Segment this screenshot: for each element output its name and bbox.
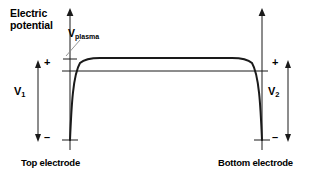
axis-title-line1: Electric (10, 8, 53, 20)
axis-title-line2: potential (10, 20, 53, 32)
axis-arrowhead-up-left (67, 8, 74, 16)
vplasma-label: Vplasma (68, 28, 99, 40)
v2-measure-arrow (285, 60, 291, 142)
v1-measure-arrow (35, 60, 41, 142)
axis-arrowhead-up-right (259, 8, 266, 16)
right-minus-sign: – (272, 132, 278, 143)
bottom-electrode-label: Bottom electrode (218, 158, 293, 169)
left-plus-sign: + (44, 57, 50, 68)
vplasma-symbol: V (68, 27, 75, 39)
top-electrode-label: Top electrode (21, 158, 80, 169)
v1-label: V1 (14, 85, 26, 97)
potential-profile-curve (70, 58, 262, 140)
v2-subscript: 2 (275, 90, 279, 99)
right-plus-sign: + (272, 57, 278, 68)
figure-canvas: Electric potential Vplasma V1 V2 + – + –… (0, 0, 309, 180)
left-minus-sign: – (44, 132, 50, 143)
v2-label: V2 (268, 85, 280, 97)
v1-subscript: 1 (21, 90, 25, 99)
axis-title: Electric potential (10, 8, 53, 32)
vplasma-subscript: plasma (75, 33, 99, 40)
vplasma-leader-line (66, 40, 80, 56)
